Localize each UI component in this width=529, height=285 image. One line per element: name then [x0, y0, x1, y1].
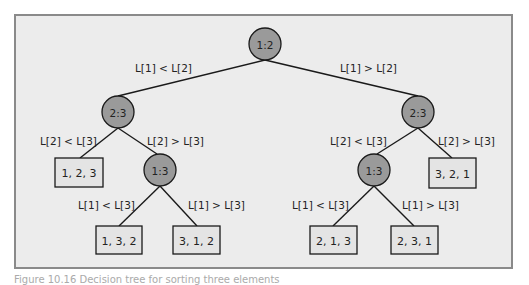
- comparison-node: 1:3: [144, 154, 176, 186]
- node-label: 2:3: [110, 107, 127, 119]
- leaf-label: 2, 1, 3: [316, 235, 351, 248]
- leaf-label: 2, 3, 1: [397, 235, 432, 248]
- edge-label: L[2] > L[3]: [438, 135, 495, 147]
- edge-label: L[2] < L[3]: [330, 135, 387, 147]
- comparison-node: 2:3: [102, 96, 134, 128]
- edge-label: L[1] < L[3]: [78, 199, 135, 211]
- node-label: 1:3: [152, 165, 169, 177]
- leaf-permutation: 3, 1, 2: [173, 226, 220, 254]
- edge-label: L[1] > L[3]: [188, 199, 245, 211]
- leaf-permutation: 2, 3, 1: [391, 226, 438, 254]
- leaf-label: 1, 3, 2: [102, 235, 137, 248]
- comparison-node: 2:3: [402, 96, 434, 128]
- leaf-label: 3, 2, 1: [435, 168, 470, 181]
- edge-label: L[1] < L[2]: [135, 62, 192, 74]
- node-label: 1:2: [257, 39, 274, 51]
- comparison-node: 1:3: [358, 154, 390, 186]
- edge-label: L[1] > L[3]: [402, 199, 459, 211]
- edge-label: L[2] > L[3]: [147, 135, 204, 147]
- leaf-permutation: 2, 1, 3: [310, 226, 357, 254]
- node-label: 1:3: [366, 165, 383, 177]
- leaf-permutation: 1, 3, 2: [96, 226, 142, 254]
- leaf-label: 3, 1, 2: [179, 235, 214, 248]
- leaf-permutation: 3, 2, 1: [429, 158, 476, 188]
- figure-caption: Figure 10.16 Decision tree for sorting t…: [14, 274, 280, 285]
- edge-label: L[2] < L[3]: [40, 135, 97, 147]
- edge-label: L[1] < L[3]: [292, 199, 349, 211]
- comparison-node: 1:2: [249, 28, 281, 60]
- leaf-label: 1, 2, 3: [62, 167, 97, 180]
- edge-label: L[1] > L[2]: [340, 62, 397, 74]
- node-label: 2:3: [410, 107, 427, 119]
- leaf-permutation: 1, 2, 3: [55, 158, 103, 187]
